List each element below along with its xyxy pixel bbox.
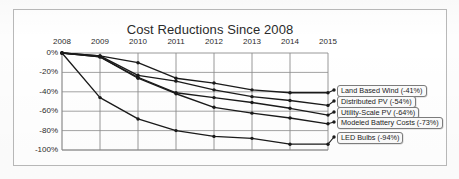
data-point [174, 129, 177, 132]
data-point [212, 106, 215, 109]
data-point [98, 55, 101, 58]
data-point [174, 92, 177, 95]
data-point [250, 101, 253, 104]
data-point [288, 116, 291, 119]
data-point [174, 79, 177, 82]
series-line-utility-scale-pv [62, 53, 328, 115]
data-point [250, 95, 253, 98]
legend-leader-endpoint [332, 88, 335, 91]
data-point [250, 111, 253, 114]
legend-label-modeled-battery-costs: Modeled Battery Costs (-73%) [337, 117, 443, 129]
data-point [250, 88, 253, 91]
data-point [288, 142, 291, 145]
series-line-modeled-battery-costs [62, 53, 328, 124]
data-point [136, 61, 139, 64]
data-point [212, 88, 215, 91]
legend-leader-endpoint [332, 99, 335, 102]
chart-figure: Cost Reductions Since 2008 2008200920102… [0, 0, 459, 179]
legend-label-led-bulbs: LED Bulbs (-94%) [337, 132, 403, 144]
data-point [136, 117, 139, 120]
data-point [212, 81, 215, 84]
data-point [174, 77, 177, 80]
series-line-distributed-pv [62, 53, 328, 105]
data-point [136, 77, 139, 80]
legend-leader-endpoint [332, 110, 335, 113]
data-point [60, 51, 63, 54]
series-line-land-based-wind [62, 53, 328, 93]
data-point [250, 137, 253, 140]
data-point [98, 96, 101, 99]
data-point [212, 96, 215, 99]
data-point [288, 91, 291, 94]
data-point [288, 107, 291, 110]
data-point [212, 135, 215, 138]
data-point [288, 99, 291, 102]
legend-leader-endpoint [332, 120, 335, 123]
legend-leader-endpoint [332, 135, 335, 138]
